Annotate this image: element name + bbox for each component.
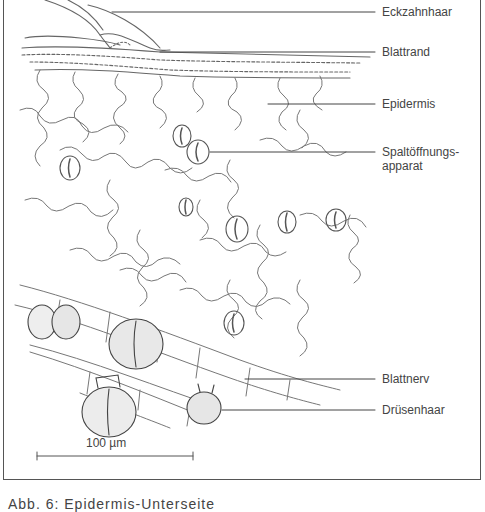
label-eckzahnhaar: Eckzahnhaar bbox=[382, 5, 452, 19]
figure-caption: Abb. 6: Epidermis-Unterseite bbox=[8, 496, 215, 512]
label-blattrand: Blattrand bbox=[382, 45, 430, 59]
leaf-margin bbox=[22, 36, 370, 78]
scale-bar-label: 100 µm bbox=[86, 436, 126, 450]
label-epidermis: Epidermis bbox=[382, 97, 435, 111]
label-spaltoeffnungsapparat: Spaltöffnungs- apparat bbox=[382, 145, 459, 173]
label-blattnerv: Blattnerv bbox=[382, 372, 429, 386]
scale-bar bbox=[37, 452, 193, 460]
glandular-hairs bbox=[28, 305, 221, 437]
tooth-hair bbox=[45, 0, 170, 51]
label-druesenhaar: Drüsenhaar bbox=[382, 403, 445, 417]
